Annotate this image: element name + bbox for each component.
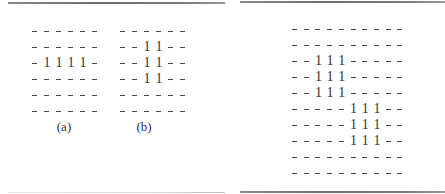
filled-cell: 1 xyxy=(312,85,324,101)
grid-row: 111 xyxy=(289,133,406,149)
right-bottom-rule xyxy=(240,191,445,193)
grid-row xyxy=(29,103,101,119)
grid-row xyxy=(117,103,189,119)
left-top-rule xyxy=(8,2,225,4)
filled-cell: 1 xyxy=(77,55,89,71)
grid-row xyxy=(29,71,101,87)
filled-cell: 1 xyxy=(41,55,53,71)
filled-cell: 1 xyxy=(371,133,383,149)
filled-cell: 1 xyxy=(371,101,383,117)
filled-cell: 1 xyxy=(312,69,324,85)
grid-row: 11 xyxy=(117,55,189,71)
grid-row: 11 xyxy=(117,39,189,55)
filled-cell: 1 xyxy=(141,55,153,71)
filled-cell: 1 xyxy=(53,55,65,71)
filled-cell: 1 xyxy=(153,71,165,87)
grid-right: 111111111111111111 xyxy=(289,21,409,181)
left-figure-panel: 1111 111111 (a) (b) xyxy=(0,0,230,194)
filled-cell: 1 xyxy=(153,55,165,71)
grid-a: 1111 xyxy=(29,23,104,119)
grid-row xyxy=(289,21,406,37)
grid-row: 11 xyxy=(117,71,189,87)
grid-row: 111 xyxy=(289,53,406,69)
filled-cell: 1 xyxy=(336,69,348,85)
filled-cell: 1 xyxy=(371,117,383,133)
grid-row: 111 xyxy=(289,69,406,85)
filled-cell: 1 xyxy=(324,53,336,69)
grid-row: 111 xyxy=(289,117,406,133)
filled-cell: 1 xyxy=(348,101,360,117)
grid-row: 111 xyxy=(289,101,406,117)
filled-cell: 1 xyxy=(324,85,336,101)
filled-cell: 1 xyxy=(348,117,360,133)
filled-cell: 1 xyxy=(324,69,336,85)
filled-cell: 1 xyxy=(348,133,360,149)
filled-cell: 1 xyxy=(153,39,165,55)
filled-cell: 1 xyxy=(359,117,371,133)
label-a: (a) xyxy=(57,119,71,135)
filled-cell: 1 xyxy=(336,85,348,101)
grid-row xyxy=(117,87,189,103)
grid-row: 111 xyxy=(289,85,406,101)
grid-row xyxy=(289,37,406,53)
grid-row: 1111 xyxy=(29,55,101,71)
grid-row xyxy=(29,39,101,55)
left-bottom-rule xyxy=(8,192,225,193)
filled-cell: 1 xyxy=(359,101,371,117)
right-top-rule xyxy=(240,1,445,3)
grid-row xyxy=(29,23,101,39)
filled-cell: 1 xyxy=(359,133,371,149)
grid-b: 111111 xyxy=(117,23,192,119)
right-figure-panel: 111111111111111111 xyxy=(235,0,445,194)
grid-row xyxy=(117,23,189,39)
grid-row xyxy=(289,149,406,165)
filled-cell: 1 xyxy=(141,39,153,55)
filled-cell: 1 xyxy=(65,55,77,71)
filled-cell: 1 xyxy=(336,53,348,69)
label-b: (b) xyxy=(136,119,151,135)
filled-cell: 1 xyxy=(141,71,153,87)
grid-row xyxy=(29,87,101,103)
filled-cell: 1 xyxy=(312,53,324,69)
grid-row xyxy=(289,165,406,181)
